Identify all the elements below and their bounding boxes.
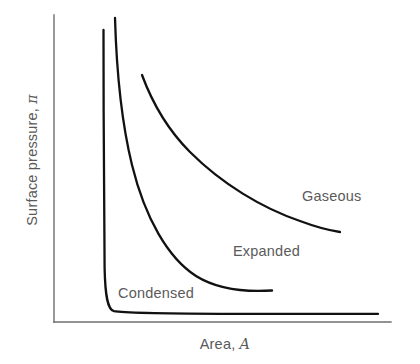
y-axis-label-text: Surface pressure,: [24, 104, 40, 226]
curve-label-expanded: Expanded: [233, 243, 300, 259]
x-axis-label-text: Area,: [200, 336, 240, 352]
curve-condensed: [104, 30, 379, 314]
plot-area: [0, 0, 420, 364]
curve-gaseous: [142, 75, 340, 232]
y-axis-label: Surface pressure, π: [24, 65, 40, 255]
area-symbol: A: [240, 336, 251, 352]
curve-label-gaseous: Gaseous: [302, 188, 361, 204]
curve-label-condensed: Condensed: [118, 285, 194, 301]
x-axis-label: Area, A: [135, 336, 315, 352]
phase-isotherm-figure: Surface pressure, π Area, A Gaseous Expa…: [0, 0, 420, 364]
pi-symbol: π: [24, 94, 40, 103]
